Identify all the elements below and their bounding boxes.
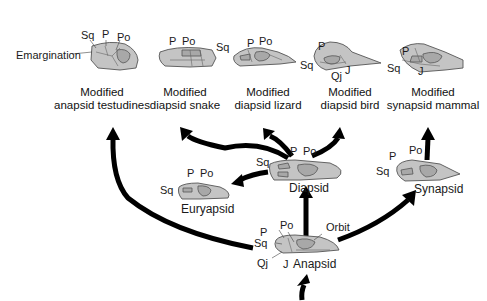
label-p: P xyxy=(247,38,254,49)
node-label-euryapsid: Euryapsid xyxy=(181,203,234,215)
caption-line2: anapsid testudines xyxy=(52,99,152,112)
label-p: P xyxy=(402,46,409,57)
label-sq: Sq xyxy=(216,42,229,53)
skull-mammal xyxy=(400,44,463,72)
label-j: J xyxy=(418,66,424,77)
label-p: P xyxy=(389,151,396,162)
label-p: P xyxy=(318,41,325,52)
label-po: Po xyxy=(280,220,293,231)
label-po: Po xyxy=(200,168,213,179)
caption-lizard: Modified diapsid lizard xyxy=(228,86,308,112)
label-po: Po xyxy=(117,32,130,43)
skull-testudines xyxy=(91,42,138,70)
caption-line2: diapsid bird xyxy=(310,99,390,112)
label-sq: Sq xyxy=(81,30,94,41)
caption-line2: diapsid lizard xyxy=(228,99,308,112)
label-j: J xyxy=(345,65,351,76)
label-sq: Sq xyxy=(256,157,269,168)
skull-anapsid xyxy=(275,235,339,253)
label-po: Po xyxy=(182,36,195,47)
arrow-diapsid-to-bird xyxy=(312,127,345,156)
label-sq: Sq xyxy=(300,60,313,71)
label-sq: Sq xyxy=(254,238,267,249)
node-label-synapsid: Synapsid xyxy=(414,183,463,195)
label-qj: Qj xyxy=(257,258,268,269)
skull-euryapsid xyxy=(178,183,229,199)
label-po: Po xyxy=(409,145,422,156)
caption-testudines: Modified anapsid testudines xyxy=(52,86,152,112)
label-emargination: Emargination xyxy=(16,50,81,61)
label-sq: Sq xyxy=(376,166,389,177)
label-po: Po xyxy=(259,36,272,47)
caption-bird: Modified diapsid bird xyxy=(310,86,390,112)
label-p: P xyxy=(102,29,109,40)
caption-snake: Modified diapsid snake xyxy=(145,86,225,112)
arrow-entry-anapsid xyxy=(297,274,310,300)
skull-synapsid xyxy=(397,160,460,181)
caption-line1: Modified xyxy=(383,86,483,99)
arrow-diapsid-to-euryapsid xyxy=(231,172,268,187)
label-orbit: Orbit xyxy=(326,222,350,233)
label-po: Po xyxy=(303,146,316,157)
caption-line1: Modified xyxy=(52,86,152,99)
label-j: J xyxy=(283,259,289,270)
arrow-synapsid-to-mammal xyxy=(421,127,435,160)
caption-line1: Modified xyxy=(310,86,390,99)
caption-line1: Modified xyxy=(228,86,308,99)
skull-lizard xyxy=(234,48,296,66)
label-qj: Qj xyxy=(331,71,342,82)
skull-diapsid xyxy=(270,160,342,180)
caption-line2: diapsid snake xyxy=(145,99,225,112)
node-label-diapsid: Diapsid xyxy=(289,182,329,194)
skull-snake xyxy=(159,48,216,68)
caption-line1: Modified xyxy=(145,86,225,99)
label-p: P xyxy=(187,168,194,179)
label-sq: Sq xyxy=(387,63,400,74)
label-sq: Sq xyxy=(160,185,173,196)
caption-mammal: Modified synapsid mammal xyxy=(383,86,483,112)
label-p: P xyxy=(290,146,297,157)
label-p: P xyxy=(169,36,176,47)
node-label-anapsid: Anapsid xyxy=(293,258,336,270)
caption-line2: synapsid mammal xyxy=(383,99,483,112)
